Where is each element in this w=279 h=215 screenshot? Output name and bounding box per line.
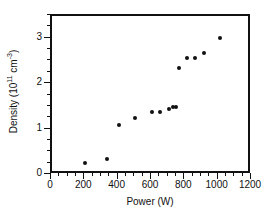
x-tick-minor (133, 173, 134, 176)
data-point (83, 161, 87, 165)
y-tick-minor (47, 139, 50, 140)
x-axis-tick-labels: 020040060080010001200 (50, 180, 250, 194)
data-point (150, 110, 154, 114)
y-axis-title: Density (1011 cm-3) (8, 17, 19, 167)
y-tick-label: 3 (36, 32, 42, 42)
x-tick-minor (158, 173, 159, 176)
data-point (218, 36, 222, 40)
y-axis-title-suffix: ) (8, 50, 19, 53)
y-tick-major (44, 82, 50, 83)
x-tick-label: 1000 (206, 180, 228, 190)
x-tick-minor (100, 173, 101, 176)
data-point (177, 66, 181, 70)
y-tick-minor (47, 25, 50, 26)
x-tick-label: 200 (75, 180, 92, 190)
x-tick-minor (58, 173, 59, 176)
plot-area (50, 14, 250, 173)
y-tick-minor (47, 162, 50, 163)
data-point (202, 51, 206, 55)
y-tick-label: 2 (36, 77, 42, 87)
x-tick-label: 800 (175, 180, 192, 190)
x-tick-minor (108, 173, 109, 176)
x-tick-minor (67, 173, 68, 176)
x-axis-title: Power (W) (50, 196, 250, 207)
y-tick-minor (47, 150, 50, 151)
x-tick-minor (192, 173, 193, 176)
data-point (158, 110, 162, 114)
data-point-layer (52, 16, 248, 171)
y-axis-title-exponent2: -3 (6, 53, 13, 59)
y-axis-tick-labels: 0123 (0, 14, 42, 173)
y-tick-label: 1 (36, 123, 42, 133)
y-tick-minor (47, 105, 50, 106)
y-tick-minor (47, 116, 50, 117)
scatter-plot-figure: 0123 020040060080010001200 Power (W) Den… (0, 0, 279, 215)
x-tick-label: 0 (47, 180, 53, 190)
x-tick-minor (125, 173, 126, 176)
data-point (193, 56, 197, 60)
x-tick-minor (200, 173, 201, 176)
x-tick-minor (242, 173, 243, 176)
y-tick-major (44, 128, 50, 129)
x-tick-minor (233, 173, 234, 176)
y-tick-minor (47, 48, 50, 49)
y-tick-minor (47, 59, 50, 60)
x-tick-minor (75, 173, 76, 176)
y-tick-minor (47, 14, 50, 15)
x-tick-minor (167, 173, 168, 176)
data-point (105, 157, 109, 161)
y-axis-title-mid: cm (8, 59, 19, 75)
y-axis-title-prefix: Density (10 (8, 83, 19, 134)
x-tick-minor (208, 173, 209, 176)
y-tick-minor (47, 71, 50, 72)
data-point (174, 105, 178, 109)
data-point (117, 123, 121, 127)
x-tick-label: 600 (142, 180, 159, 190)
data-point (185, 56, 189, 60)
x-tick-minor (175, 173, 176, 176)
y-tick-major (44, 37, 50, 38)
y-tick-minor (47, 94, 50, 95)
y-tick-label: 0 (36, 168, 42, 178)
x-tick-minor (225, 173, 226, 176)
x-tick-minor (142, 173, 143, 176)
x-tick-minor (92, 173, 93, 176)
y-axis-title-exponent: 11 (6, 75, 13, 82)
x-tick-label: 1200 (239, 180, 261, 190)
x-tick-label: 400 (108, 180, 125, 190)
data-point (133, 116, 137, 120)
